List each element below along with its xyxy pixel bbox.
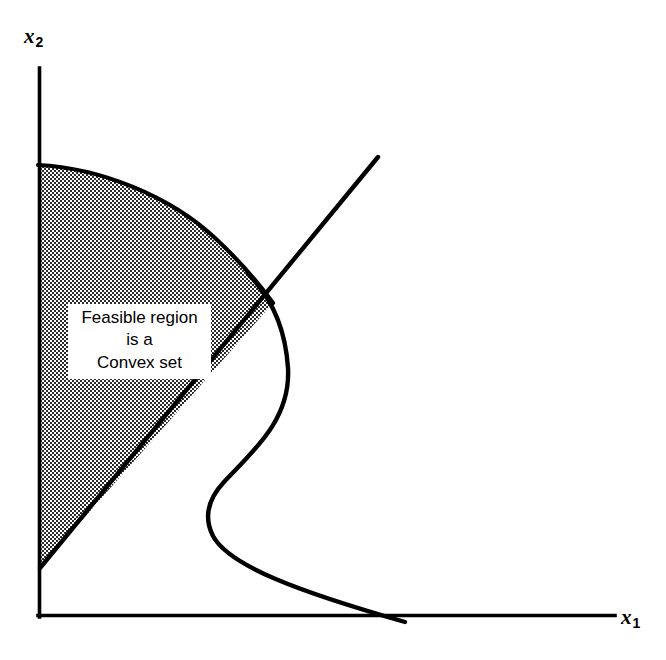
x-axis-label-letter: x [621,605,632,629]
feasible-region-caption: Feasible region is a Convex set [68,304,211,379]
caption-line-2: is a [68,329,211,351]
caption-line-1: Feasible region [68,307,211,329]
x-axis-label: x1 [621,607,639,628]
convex-feasible-region-figure: x2 x1 Feasible region is a Convex set [0,0,666,660]
y-axis-label-letter: x [24,24,35,48]
caption-line-3: Convex set [68,352,211,374]
x-axis-label-subscript: 1 [633,615,641,631]
y-axis-label-subscript: 2 [36,34,44,50]
y-axis-label: x2 [24,26,42,47]
